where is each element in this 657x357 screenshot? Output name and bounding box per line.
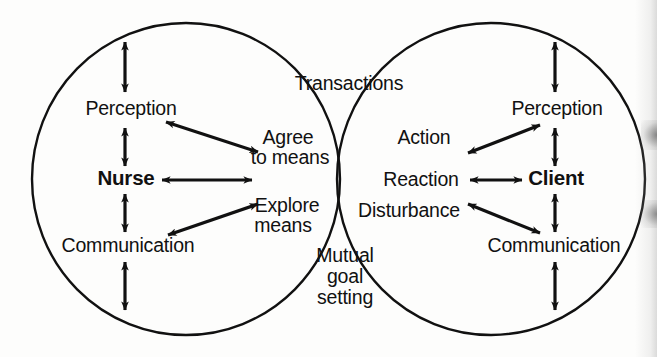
mutual-label-line1: Mutual [316, 244, 373, 266]
venn-diagram-canvas: Perception Nurse Communication Transacti… [0, 0, 657, 357]
disturbance-label: Disturbance [358, 199, 460, 221]
transactions-label: Transactions [295, 72, 404, 94]
action-label: Action [398, 126, 451, 148]
client-label: Client [528, 166, 584, 189]
agree-label-line1: Agree [262, 126, 313, 148]
venn-diagram-svg: Perception Nurse Communication Transacti… [0, 0, 657, 357]
explore-label-line1: Explore [255, 194, 320, 216]
nurse-label: Nurse [97, 166, 154, 189]
arrow-nurse-communication-to-explore-means [168, 204, 258, 235]
mutual-label-line3: setting [317, 286, 373, 308]
arrow-client-communication-to-disturbance [468, 204, 540, 233]
mutual-label-line2: goal [327, 265, 363, 287]
nurse-perception-label: Perception [85, 97, 176, 119]
nurse-communication-label: Communication [62, 234, 195, 256]
reaction-label: Reaction [383, 168, 458, 190]
agree-label-line2: to means [251, 146, 330, 168]
client-communication-label: Communication [488, 234, 621, 256]
arrow-nurse-perception-to-agree-to-means [166, 122, 258, 152]
arrow-client-perception-to-action [468, 125, 540, 153]
client-perception-label: Perception [511, 97, 602, 119]
explore-label-line2: means [254, 214, 312, 236]
